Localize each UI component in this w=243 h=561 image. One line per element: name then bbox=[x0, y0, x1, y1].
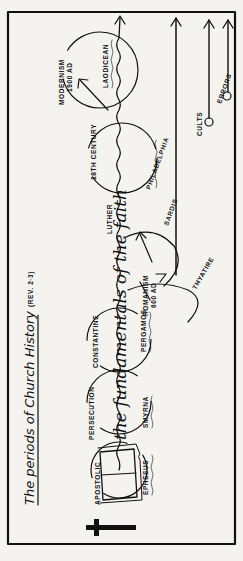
period-label-persecution: PERSECUTION bbox=[88, 386, 95, 440]
church-label-thyatire: THYATIRE bbox=[191, 256, 215, 291]
underline-smyrna bbox=[151, 396, 153, 428]
period-label-18th-century: 18TH CENTURY bbox=[90, 124, 97, 180]
period-label-apostolic: APOSTOLIC bbox=[94, 462, 101, 505]
church-label-smyrna: SMYRNA bbox=[142, 396, 149, 428]
underline-ephesus bbox=[151, 455, 153, 495]
church-label-ephesus: EPHESUS bbox=[142, 460, 149, 495]
period-label-modernism: MODERNISM bbox=[58, 59, 65, 105]
period-label-constantine: CONSTANTINE bbox=[92, 315, 99, 368]
scripture-reference: (REV. 2·3) bbox=[27, 271, 35, 307]
cults-origin-icon bbox=[205, 118, 213, 126]
church-label-laodicean: LAODICEAN bbox=[102, 44, 109, 88]
underline-laodicean bbox=[111, 40, 113, 88]
period-date-modernism: 1900 AD bbox=[66, 62, 73, 92]
church-label-pergamos: PERGAMOS bbox=[140, 309, 147, 352]
errors-label: ERRORS bbox=[215, 72, 232, 104]
cross-icon bbox=[86, 519, 136, 536]
church-history-diagram: The periods of Church History (REV. 2·3)… bbox=[0, 0, 243, 561]
arc-thyatira bbox=[128, 284, 198, 322]
arrowhead-romanism-icon bbox=[156, 274, 166, 282]
period-label-luther: LUTHER bbox=[106, 204, 113, 234]
diagram-title: The periods of Church History bbox=[22, 311, 37, 505]
cults-label: CULTS bbox=[196, 112, 203, 136]
center-banner: the fundamentals of the faith bbox=[110, 189, 130, 440]
circle-modernism bbox=[62, 32, 138, 108]
period-date-romanism: 600 AD bbox=[150, 283, 157, 308]
